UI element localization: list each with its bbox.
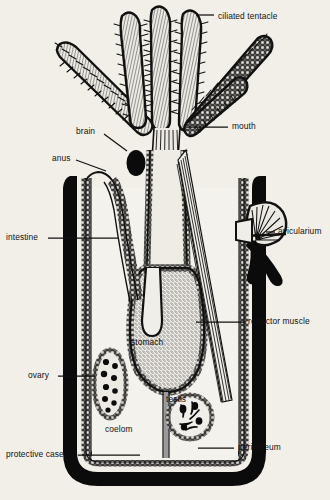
- label-ciliated-tentacle: ciliated tentacle: [218, 11, 277, 21]
- label-brain: brain: [76, 126, 95, 136]
- label-peritoneum: peritoneum: [238, 442, 281, 452]
- brain-ganglion: [127, 150, 146, 176]
- label-coelom: coelom: [105, 424, 133, 434]
- label-stomach: stomach: [131, 337, 163, 347]
- label-avicularium: avicularium: [278, 226, 321, 236]
- label-intestine: intestine: [6, 232, 38, 242]
- label-mouth: mouth: [232, 121, 256, 131]
- label-anus: anus: [52, 153, 71, 163]
- label-ovary: ovary: [28, 370, 49, 380]
- bryozoan-anatomy-diagram: [0, 0, 330, 500]
- label-protective-case: protective case: [6, 449, 64, 459]
- label-retractor-muscle: retractor muscle: [248, 316, 310, 326]
- ovary: [94, 350, 126, 418]
- label-testis: testis: [166, 394, 186, 404]
